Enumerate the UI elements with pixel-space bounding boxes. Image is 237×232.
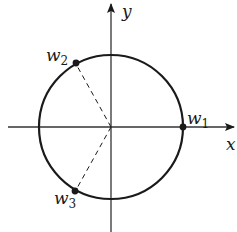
label-w1: w1 [187,108,209,131]
dashed-radius-w3 [76,127,111,190]
y-axis-label: y [121,1,132,21]
point-w3 [72,188,79,195]
roots-of-unity-diagram: y x w1 w2 w3 [0,0,237,232]
point-w1 [180,124,187,131]
point-w2 [73,60,80,67]
x-axis-label: x [226,134,236,154]
dashed-radius-w2 [76,64,111,127]
label-w2: w2 [46,45,68,68]
